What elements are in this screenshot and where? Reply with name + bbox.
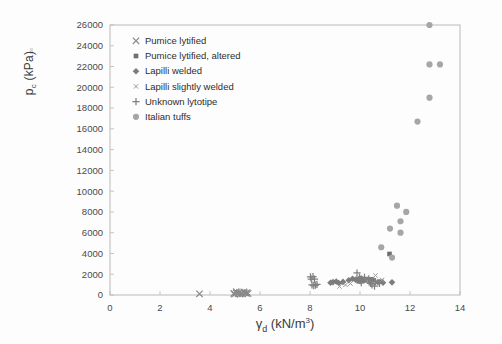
x-axis-title-unit: (kN/m [267,316,305,331]
legend-label: Pumice lytified, altered [145,50,241,61]
legend-label: Lapilli slightly welded [145,81,234,92]
data-point-circle [394,203,400,209]
legend-item: Lapilli welded [133,65,202,76]
y-axis-title-unit: (kPa) [22,51,36,84]
data-points-layer [196,22,443,297]
y-tick-label: 0 [98,289,103,300]
figure-root: 0200040006000800010000120001400016000180… [0,0,502,344]
x-tick-label: 6 [257,302,262,313]
data-point-circle [426,22,432,28]
data-point-circle [403,209,409,215]
x-tick-label: 8 [307,302,312,313]
y-tick-label: 16000 [77,123,103,134]
legend-label: Unknown lytotipe [145,96,217,107]
y-tick-label: 2000 [82,269,103,280]
y-tick-label: 10000 [77,186,103,197]
data-point-x-small [134,84,138,88]
y-tick-label: 24000 [77,40,103,51]
x-tick-label: 4 [207,302,212,313]
data-point-circle [397,218,403,224]
series-5 [378,22,443,261]
data-point-diamond [133,68,140,75]
legend: Pumice lytifiedPumice lytified, alteredL… [132,35,240,122]
legend-item: Pumice lytified [133,35,206,46]
series-0 [196,288,251,297]
y-axis-tick-labels: 0200040006000800010000120001400016000180… [77,19,103,300]
legend-item: Lapilli slightly welded [134,81,234,92]
data-point-circle [133,114,139,120]
data-point-diamond [389,279,396,286]
legend-label: Italian tuffs [145,111,191,122]
data-point-x-small [348,281,352,285]
legend-item: Unknown lytotipe [132,96,217,107]
data-point-plus [132,98,139,105]
plot-svg: 0200040006000800010000120001400016000180… [0,0,502,344]
data-point-x [133,38,139,44]
data-point-circle [426,95,432,101]
y-tick-label: 18000 [77,102,103,113]
y-tick-label: 4000 [82,248,103,259]
scatter-plot: 0200040006000800010000120001400016000180… [0,0,502,344]
x-tick-label: 2 [157,302,162,313]
data-point-circle [414,118,420,124]
data-point-circle [389,255,395,261]
x-axis-title-close: ) [310,316,314,331]
legend-label: Pumice lytified [145,35,206,46]
y-tick-label: 20000 [77,82,103,93]
data-point-circle [397,230,403,236]
y-axis-title-base: p [22,88,36,95]
y-axis-title-sub: c [29,84,38,88]
x-tick-label: 12 [405,302,416,313]
legend-item: Italian tuffs [133,111,191,122]
x-tick-label: 0 [107,302,112,313]
x-axis-title: γd (kN/m3) [110,316,460,334]
data-point-circle [426,61,432,67]
y-tick-label: 12000 [77,165,103,176]
y-tick-label: 14000 [77,144,103,155]
y-axis-title: pc (kPa) [22,28,38,118]
legend-label: Lapilli welded [145,65,202,76]
y-tick-label: 8000 [82,206,103,217]
data-point-x-small [373,273,377,277]
data-point-x [196,291,202,297]
data-point-circle [437,61,443,67]
data-point-square [134,54,139,59]
x-axis-tick-labels: 02468101214 [107,302,465,313]
y-tick-label: 6000 [82,227,103,238]
x-tick-label: 10 [355,302,366,313]
y-tick-label: 22000 [77,61,103,72]
y-tick-label: 26000 [77,19,103,30]
legend-item: Pumice lytified, altered [134,50,241,61]
x-tick-label: 14 [455,302,466,313]
data-point-circle [378,244,384,250]
data-point-x-small [343,283,347,287]
data-point-circle [387,225,393,231]
